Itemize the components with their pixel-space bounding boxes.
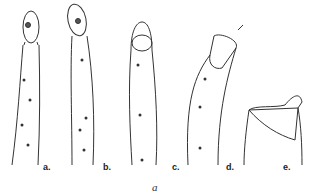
panel-label-b: b. (103, 162, 111, 172)
cell-b (65, 2, 94, 165)
panel-label-e: e. (283, 162, 291, 172)
panel-label-a: a. (43, 162, 51, 172)
cell-a (12, 11, 40, 165)
cell-c (129, 22, 156, 165)
panel-label-d: d. (226, 162, 234, 172)
cell-e (244, 96, 302, 165)
panel-label-c: c. (172, 162, 180, 172)
cell-d (187, 25, 243, 165)
figure-caption: a (152, 181, 158, 193)
